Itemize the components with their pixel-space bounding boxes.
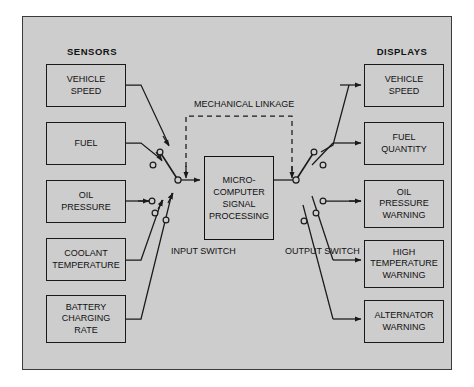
sensor-box-vehicle-speed[interactable]: VEHICLE SPEED (46, 64, 126, 107)
mechanical-linkage-line2: LINKAGE (255, 99, 294, 109)
input-switch-line2: SWITCH (200, 246, 236, 256)
sensor-label-line2: CHARGING (62, 313, 111, 325)
sensor-box-fuel[interactable]: FUEL (46, 122, 126, 165)
sensor-label-line1: VEHICLE (67, 74, 106, 86)
display-label-line2: QUANTITY (381, 144, 427, 156)
output-switch-label: OUTPUT SWITCH (285, 246, 360, 258)
displays-heading: DISPLAYS (356, 46, 448, 57)
mechanical-linkage-label: MECHANICAL LINKAGE (194, 99, 286, 111)
sensor-label-line2: TEMPERATURE (52, 260, 119, 272)
sensor-box-coolant-temperature[interactable]: COOLANT TEMPERATURE (46, 238, 126, 281)
input-switch-label: INPUT SWITCH (171, 246, 236, 258)
display-box-oil-pressure-warning[interactable]: OIL PRESSURE WARNING (364, 180, 444, 228)
sensor-label-line1: BATTERY (62, 302, 111, 314)
display-label-line3: WARNING (379, 210, 429, 222)
sensor-label-line3: RATE (62, 325, 111, 337)
display-label-line1: VEHICLE (385, 74, 424, 86)
sensor-label-line1: OIL (61, 190, 111, 202)
cpu-label-line4: PROCESSING (209, 210, 269, 222)
input-switch-line1: INPUT (171, 246, 198, 256)
sensor-label-line1: COOLANT (52, 248, 119, 260)
display-label-line2: WARNING (374, 322, 433, 334)
mechanical-linkage-line1: MECHANICAL (194, 99, 253, 109)
display-box-alternator-warning[interactable]: ALTERNATOR WARNING (364, 300, 444, 343)
output-switch-line1: OUTPUT (285, 246, 322, 256)
sensor-label-line2: PRESSURE (61, 202, 111, 214)
display-label-line1: ALTERNATOR (374, 310, 433, 322)
cpu-label-line1: MICRO- (209, 174, 269, 186)
display-label-line2: SPEED (385, 86, 424, 98)
cpu-label-line3: SIGNAL (209, 198, 269, 210)
display-label-line2: TEMPERATURE (370, 258, 437, 270)
display-label-line1: FUEL (381, 132, 427, 144)
display-label-line3: WARNING (370, 270, 437, 282)
display-label-line1: OIL (379, 187, 429, 199)
diagram-canvas: SENSORS DISPLAYS VEHICLE SPEED FUEL OIL … (0, 0, 474, 387)
sensor-label-line1: FUEL (74, 138, 97, 150)
display-label-line1: HIGH (370, 247, 437, 259)
display-box-vehicle-speed[interactable]: VEHICLE SPEED (364, 64, 444, 107)
sensors-heading: SENSORS (46, 46, 138, 57)
sensor-label-line2: SPEED (67, 86, 106, 98)
cpu-label-line2: COMPUTER (209, 186, 269, 198)
sensor-box-oil-pressure[interactable]: OIL PRESSURE (46, 180, 126, 223)
display-box-high-temperature-warning[interactable]: HIGH TEMPERATURE WARNING (364, 240, 444, 288)
display-box-fuel-quantity[interactable]: FUEL QUANTITY (364, 122, 444, 165)
display-label-line2: PRESSURE (379, 198, 429, 210)
microcomputer-block[interactable]: MICRO- COMPUTER SIGNAL PROCESSING (204, 156, 274, 240)
output-switch-line2: SWITCH (324, 246, 360, 256)
sensor-box-battery-charging-rate[interactable]: BATTERY CHARGING RATE (46, 295, 126, 343)
